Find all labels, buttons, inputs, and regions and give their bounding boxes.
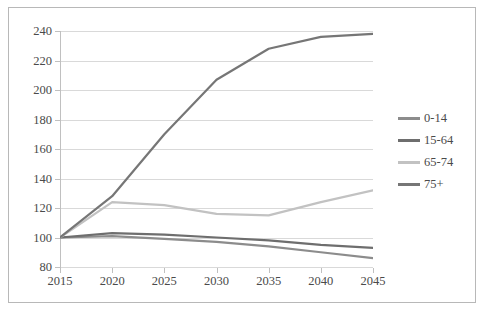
- x-tick-mark: [373, 268, 374, 273]
- x-axis-tick-label: 2015: [48, 275, 73, 288]
- x-axis-tick-label: 2030: [204, 275, 229, 288]
- y-axis-labels: 80100120140160180200220240: [0, 0, 52, 311]
- series-line: [60, 236, 373, 258]
- x-tick-mark: [321, 268, 322, 273]
- legend-line-swatch: [398, 161, 420, 164]
- series-line: [60, 190, 373, 237]
- x-tick-mark: [112, 268, 113, 273]
- x-tick-mark: [164, 268, 165, 273]
- x-tick-mark: [217, 268, 218, 273]
- legend-label: 65-74: [424, 156, 453, 169]
- y-axis-tick-label: 220: [33, 55, 52, 68]
- y-axis-tick-label: 100: [33, 232, 52, 245]
- chart-legend: 0-1415-6465-7475+: [398, 107, 476, 195]
- x-tick-mark: [60, 268, 61, 273]
- x-axis-tick-label: 2040: [308, 275, 333, 288]
- legend-line-swatch: [398, 117, 420, 120]
- x-axis-tick-label: 2045: [361, 275, 386, 288]
- y-axis-tick-label: 140: [33, 173, 52, 186]
- legend-item[interactable]: 65-74: [398, 151, 476, 173]
- legend-line-swatch: [398, 183, 420, 186]
- x-tick-mark: [269, 268, 270, 273]
- y-axis-tick-label: 160: [33, 143, 52, 156]
- x-axis-tick-label: 2025: [152, 275, 177, 288]
- y-axis-tick-label: 120: [33, 202, 52, 215]
- legend-item[interactable]: 0-14: [398, 107, 476, 129]
- x-axis-tick-label: 2035: [256, 275, 281, 288]
- y-axis-tick-label: 180: [33, 114, 52, 127]
- legend-item[interactable]: 15-64: [398, 129, 476, 151]
- chart-container: 80100120140160180200220240 2015202020252…: [0, 0, 484, 311]
- legend-label: 75+: [424, 178, 444, 191]
- legend-line-swatch: [398, 139, 420, 142]
- y-axis-tick-label: 80: [40, 261, 53, 274]
- plot-area: [60, 31, 373, 267]
- y-axis-tick-label: 240: [33, 25, 52, 38]
- legend-label: 0-14: [424, 112, 447, 125]
- x-axis-tick-label: 2020: [100, 275, 125, 288]
- legend-item[interactable]: 75+: [398, 173, 476, 195]
- y-axis-tick-label: 200: [33, 84, 52, 97]
- legend-label: 15-64: [424, 134, 453, 147]
